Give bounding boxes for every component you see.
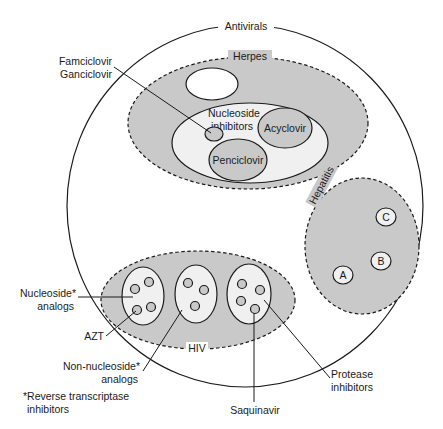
famciclovir-ganciclovir-ellipse <box>205 127 223 141</box>
antivirals-title: Antivirals <box>225 20 268 32</box>
non-nucleoside-dot <box>184 279 193 288</box>
herpes-unlabeled-subset <box>186 68 238 100</box>
hepatitis-b-label: B <box>377 255 384 267</box>
footnote-line2: inhibitors <box>27 403 69 415</box>
protease-inhibitors-label-line2: inhibitors <box>331 381 373 393</box>
penciclovir-label: Penciclovir <box>213 154 264 166</box>
nucleoside-inhibitors-label-line1: Nucleoside <box>208 107 260 119</box>
nucleoside-analogs-label-line2: analogs <box>37 300 74 312</box>
nucleoside-analogs-label-line1: Nucleoside* <box>20 287 76 299</box>
protease-inhibitors-ellipse <box>227 264 271 324</box>
saquinavir-label: Saquinavir <box>230 404 280 416</box>
antivirals-diagram: Antivirals Herpes Nucleoside inhibitors … <box>0 0 443 429</box>
non-nucleoside-dot <box>191 302 200 311</box>
nucleoside-dot <box>147 303 156 312</box>
hepatitis-a-label: A <box>339 269 346 281</box>
footnote-line1: *Reverse transcriptase <box>23 390 129 402</box>
non-nucleoside-analogs-ellipse <box>175 265 217 323</box>
protease-dot <box>238 280 247 289</box>
hiv-label: HIV <box>188 342 206 354</box>
non-nucleoside-analogs-label-line2: analogs <box>101 373 138 385</box>
hepatitis-c-label: C <box>382 211 390 223</box>
footnote: *Reverse transcriptase inhibitors <box>23 390 129 415</box>
herpes-label: Herpes <box>233 50 267 62</box>
hepatitis-ellipse <box>305 178 419 314</box>
ganciclovir-label: Ganciclovir <box>60 68 112 80</box>
protease-inhibitors-label-line1: Protease <box>331 368 373 380</box>
non-nucleoside-analogs-label-line1: Non-nucleoside* <box>63 360 140 372</box>
nucleoside-dot <box>131 285 140 294</box>
non-nucleoside-dot <box>200 286 209 295</box>
nucleoside-analogs-ellipse <box>122 267 164 325</box>
protease-dot <box>256 286 265 295</box>
azt-label: AZT <box>84 330 104 342</box>
nucleoside-dot <box>145 278 154 287</box>
famciclovir-label: Famciclovir <box>59 55 113 67</box>
protease-dot <box>237 297 246 306</box>
saquinavir-dot <box>251 305 260 314</box>
acyclovir-label: Acyclovir <box>264 122 307 134</box>
